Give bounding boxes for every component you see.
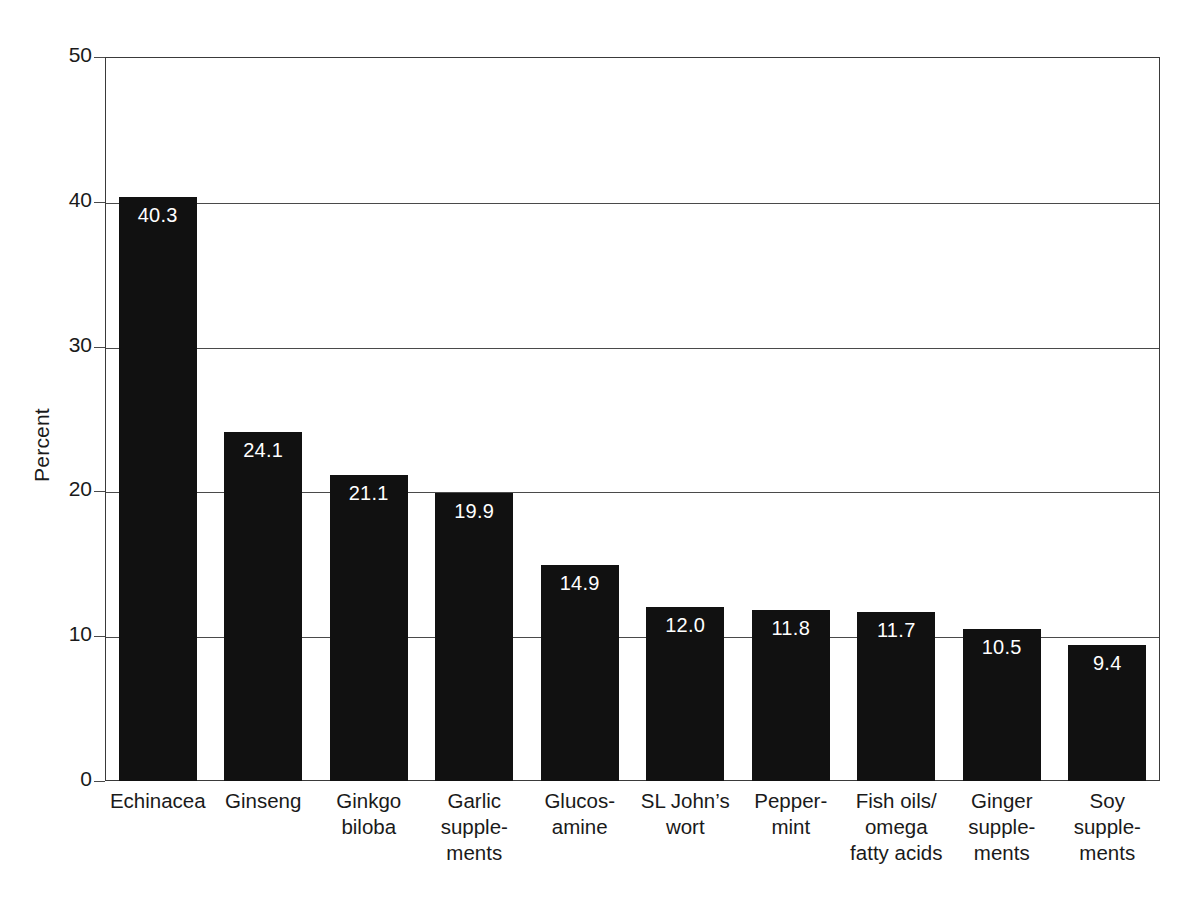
y-axis-tick xyxy=(94,57,105,58)
gridline xyxy=(106,203,1159,204)
x-axis-category-label: Glucos- amine xyxy=(527,788,633,840)
x-axis-category-label: SL John’s wort xyxy=(633,788,739,840)
y-axis-tick-label: 20 xyxy=(40,477,92,501)
x-axis-category-label: Ginkgo biloba xyxy=(316,788,422,840)
y-axis-tick xyxy=(94,202,105,203)
y-axis-tick-label: 30 xyxy=(40,333,92,357)
y-axis-tick xyxy=(94,636,105,637)
x-axis-category-label: Soy supple- ments xyxy=(1055,788,1161,866)
y-axis-tick xyxy=(94,491,105,492)
y-axis-tick-label: 0 xyxy=(40,767,92,791)
y-axis-title: Percent xyxy=(30,345,54,545)
gridline xyxy=(106,492,1159,493)
y-axis-tick-label: 40 xyxy=(40,188,92,212)
y-axis-tick xyxy=(94,347,105,348)
x-axis-category-label: Echinacea xyxy=(105,788,211,814)
x-axis-category-label: Garlic supple- ments xyxy=(422,788,528,866)
gridline xyxy=(106,637,1159,638)
x-axis-labels: EchinaceaGinsengGinkgo bilobaGarlic supp… xyxy=(105,788,1160,898)
x-axis-category-label: Ginger supple- ments xyxy=(949,788,1055,866)
y-axis-tick-label: 10 xyxy=(40,622,92,646)
y-axis-tick-label: 50 xyxy=(40,43,92,67)
plot-area xyxy=(105,57,1160,781)
x-axis-category-label: Ginseng xyxy=(211,788,317,814)
x-axis-category-label: Pepper- mint xyxy=(738,788,844,840)
bar-chart: Percent 01020304050 40.324.121.119.914.9… xyxy=(0,0,1198,901)
y-axis-tick xyxy=(94,781,105,782)
x-axis-category-label: Fish oils/ omega fatty acids xyxy=(844,788,950,866)
gridline xyxy=(106,348,1159,349)
